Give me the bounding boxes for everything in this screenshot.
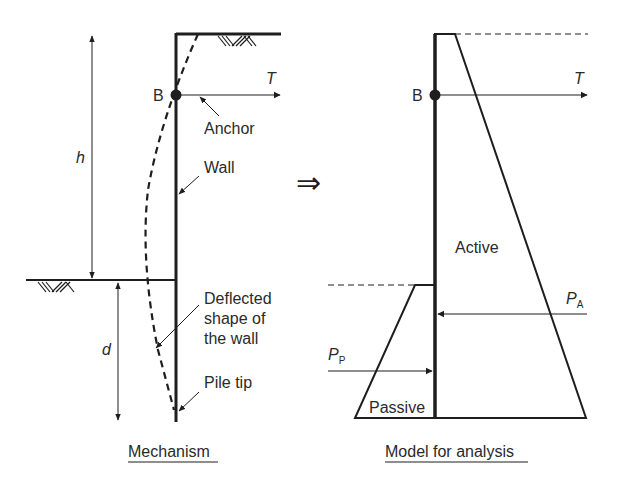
model-panel: B T Active Passive PA PP Model for analy… (328, 34, 588, 462)
anchor-point-b (171, 90, 182, 101)
mechanism-caption: Mechanism (128, 443, 210, 460)
pile-tip-pointer (179, 392, 199, 411)
anchor-label: Anchor (204, 120, 255, 137)
d-label: d (102, 341, 112, 358)
soil-hatch-icon (218, 36, 256, 46)
model-b-label: B (412, 87, 423, 104)
anchor-pointer (200, 97, 219, 116)
deflected-label-line1: Deflected (204, 290, 272, 307)
model-caption: Model for analysis (385, 443, 514, 460)
wall-label: Wall (204, 159, 235, 176)
t-label: T (266, 70, 277, 87)
wall-pointer (179, 176, 199, 194)
active-label: Active (455, 239, 499, 256)
passive-label: Passive (369, 399, 425, 416)
pile-tip-label: Pile tip (204, 374, 252, 391)
model-anchor-point-b (430, 90, 441, 101)
deflected-label-line2: shape of (204, 310, 266, 327)
mechanism-panel: h d B T Anchor Wall Deflected shape of t… (26, 33, 281, 462)
pa-label: PA (566, 290, 584, 310)
implies-arrow-icon: ⇒ (296, 165, 321, 200)
pp-label: PP (328, 346, 346, 366)
soil-hatch-icon (38, 282, 74, 292)
deflected-label-line3: the wall (204, 330, 258, 347)
model-t-label: T (574, 70, 585, 87)
active-pressure-diagram (435, 34, 586, 418)
h-label: h (76, 149, 85, 166)
diagram-canvas: h d B T Anchor Wall Deflected shape of t… (0, 0, 621, 487)
b-label: B (153, 87, 164, 104)
